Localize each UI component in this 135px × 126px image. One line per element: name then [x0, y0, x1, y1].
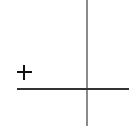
diagram-canvas: [0, 0, 135, 126]
horizontal-axis-line: [17, 88, 129, 90]
plus-icon: [17, 65, 32, 80]
vertical-axis-line: [86, 0, 88, 126]
